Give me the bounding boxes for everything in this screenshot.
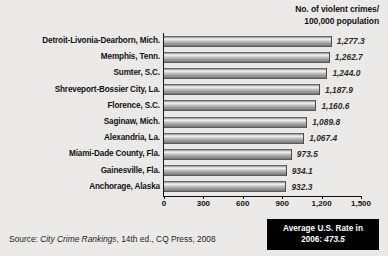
chart-row: Alexandria, La.1,067.4 — [0, 130, 388, 146]
bar — [164, 133, 304, 144]
chart-row: Sumter, S.C.1,244.0 — [0, 65, 388, 81]
bar — [164, 100, 316, 111]
bar — [164, 52, 330, 63]
bar-value-label: 1,160.6 — [321, 98, 349, 114]
units-caption-line-1: No. of violent crimes/ — [233, 4, 379, 16]
bar — [164, 117, 307, 128]
chart-row: Miami-Dade County, Fla.973.5 — [0, 146, 388, 162]
x-axis-tick-label: 300 — [197, 199, 210, 208]
plot-area: Detroit-Livonia-Dearborn, Mich.1,277.3Me… — [0, 33, 388, 196]
bar-value-label: 1,187.9 — [325, 82, 353, 98]
category-label: Shreveport-Bossier City, La. — [0, 82, 160, 98]
bar-value-label: 932.3 — [291, 179, 312, 195]
source-note: Source: City Crime Rankings, 14th ed., C… — [9, 234, 216, 244]
x-axis-tick-label: 0 — [162, 199, 166, 208]
chart-row: Anchorage, Alaska932.3 — [0, 179, 388, 195]
bar-value-label: 1,277.3 — [337, 33, 365, 49]
category-label: Saginaw, Mich. — [0, 114, 160, 130]
bar-container — [164, 181, 286, 192]
bar-container — [164, 133, 304, 144]
bar-container — [164, 165, 287, 176]
units-caption: No. of violent crimes/ 100,000 populatio… — [233, 4, 379, 27]
category-label: Anchorage, Alaska — [0, 179, 160, 195]
bar-value-label: 1,089.8 — [312, 114, 340, 130]
x-axis-tick-label: 1,500 — [351, 199, 371, 208]
bar-container — [164, 100, 316, 111]
average-rate-value: 473.5 — [324, 235, 345, 244]
bar — [164, 36, 332, 47]
category-label: Florence, S.C. — [0, 98, 160, 114]
bar-value-label: 1,067.4 — [309, 130, 337, 146]
category-label: Alexandria, La. — [0, 130, 160, 146]
category-label: Gainesville, Fla. — [0, 163, 160, 179]
chart-row: Memphis, Tenn.1,262.7 — [0, 49, 388, 65]
source-rest: , 14th ed., CQ Press, 2008 — [117, 234, 216, 244]
bar-container — [164, 68, 327, 79]
bar — [164, 149, 292, 160]
bar-container — [164, 52, 330, 63]
source-prefix: Source: — [9, 234, 38, 244]
category-label: Memphis, Tenn. — [0, 49, 160, 65]
chart-row: Saginaw, Mich.1,089.8 — [0, 114, 388, 130]
category-label: Sumter, S.C. — [0, 65, 160, 81]
bar-container — [164, 117, 307, 128]
y-axis-line — [163, 33, 164, 197]
x-axis-tick-label: 600 — [236, 199, 249, 208]
bar — [164, 181, 286, 192]
chart-row: Detroit-Livonia-Dearborn, Mich.1,277.3 — [0, 33, 388, 49]
x-axis-tick-label: 1,200 — [312, 199, 332, 208]
average-rate-label: Average U.S. Rate in — [283, 224, 363, 233]
bar-container — [164, 36, 332, 47]
chart-row: Florence, S.C.1,160.6 — [0, 98, 388, 114]
bar — [164, 165, 287, 176]
x-axis-tick-label: 900 — [276, 199, 289, 208]
average-rate-year: 2006: — [301, 235, 322, 244]
x-axis-line — [164, 196, 361, 197]
bar — [164, 84, 320, 95]
bar-value-label: 934.1 — [292, 163, 313, 179]
category-label: Detroit-Livonia-Dearborn, Mich. — [0, 33, 160, 49]
bar-value-label: 973.5 — [297, 146, 318, 162]
bar-value-label: 1,262.7 — [335, 49, 363, 65]
average-rate-callout: Average U.S. Rate in 2006: 473.5 — [267, 219, 379, 250]
violent-crime-bar-chart: No. of violent crimes/ 100,000 populatio… — [0, 0, 388, 256]
bar-container — [164, 149, 292, 160]
source-work-title: City Crime Rankings — [40, 234, 116, 244]
chart-row: Shreveport-Bossier City, La.1,187.9 — [0, 82, 388, 98]
bar-container — [164, 84, 320, 95]
category-label: Miami-Dade County, Fla. — [0, 146, 160, 162]
units-caption-line-2: 100,000 population — [233, 16, 379, 28]
bar — [164, 68, 327, 79]
bar-value-label: 1,244.0 — [332, 65, 360, 81]
chart-row: Gainesville, Fla.934.1 — [0, 163, 388, 179]
